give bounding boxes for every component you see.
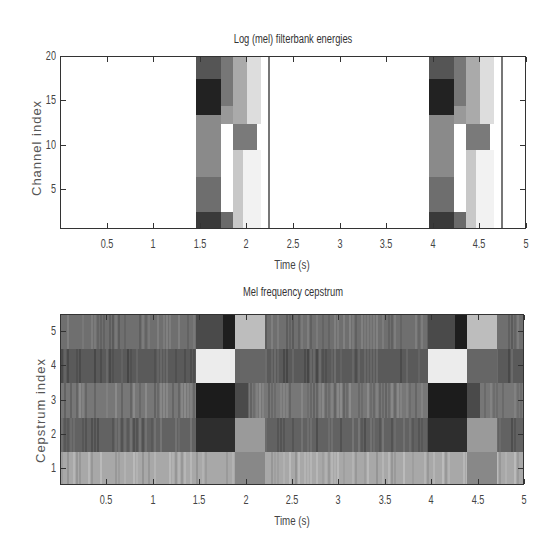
heatmap-streak bbox=[133, 418, 135, 452]
heatmap-streak bbox=[508, 349, 510, 383]
heatmap-streak bbox=[112, 349, 114, 383]
heatmap-cell bbox=[221, 57, 233, 106]
heatmap-cell bbox=[243, 150, 262, 229]
y-tick-mark bbox=[520, 100, 525, 101]
heatmap-streak bbox=[190, 418, 192, 452]
y-tick-mark bbox=[61, 468, 66, 469]
heatmap-streak bbox=[160, 418, 162, 452]
heatmap-streak bbox=[367, 383, 369, 417]
x-tick-mark bbox=[431, 315, 432, 320]
heatmap-streak bbox=[379, 383, 381, 417]
x-tick-mark bbox=[479, 223, 480, 228]
heatmap-streak bbox=[202, 452, 204, 485]
heatmap-cell bbox=[454, 57, 466, 106]
heatmap-cell bbox=[233, 57, 247, 124]
x-tick-label: 3.5 bbox=[378, 492, 391, 507]
heatmap-streak bbox=[391, 418, 393, 452]
heatmap-streak bbox=[361, 315, 363, 349]
x-tick-mark bbox=[153, 57, 154, 62]
heatmap-streak bbox=[322, 315, 324, 349]
heatmap-streak bbox=[382, 383, 384, 417]
heatmap-streak bbox=[67, 315, 69, 349]
heatmap-streak bbox=[373, 315, 375, 349]
x-tick-mark bbox=[292, 479, 293, 484]
heatmap-streak bbox=[136, 452, 138, 485]
heatmap-streak bbox=[343, 383, 345, 417]
heatmap-cell bbox=[196, 418, 235, 452]
heatmap-streak bbox=[130, 349, 132, 383]
heatmap-streak bbox=[64, 418, 66, 452]
heatmap-streak bbox=[514, 383, 516, 417]
x-tick-mark bbox=[478, 315, 479, 320]
heatmap-streak bbox=[382, 315, 384, 349]
y-tick-mark bbox=[520, 145, 525, 146]
y-tick-mark bbox=[61, 145, 66, 146]
heatmap-streak bbox=[418, 315, 420, 349]
y-tick-mark bbox=[61, 365, 66, 366]
heatmap-streak bbox=[139, 383, 141, 417]
heatmap-streak bbox=[388, 452, 390, 485]
y-tick-label: 15 bbox=[35, 92, 56, 107]
heatmap-streak bbox=[361, 418, 363, 452]
x-tick-mark bbox=[526, 57, 527, 62]
x-tick-mark bbox=[199, 479, 200, 484]
x-tick-mark bbox=[246, 223, 247, 228]
x-tick-mark bbox=[524, 479, 525, 484]
heatmap-streak bbox=[391, 315, 393, 349]
heatmap-streak bbox=[511, 418, 513, 452]
heatmap-streak bbox=[187, 383, 189, 417]
heatmap-streak bbox=[364, 418, 366, 452]
heatmap-streak bbox=[421, 315, 423, 349]
heatmap-streak bbox=[76, 452, 78, 485]
top-chart-title: Log (mel) filterbank energies bbox=[215, 32, 371, 46]
heatmap-streak bbox=[292, 418, 294, 452]
heatmap-streak bbox=[334, 315, 336, 349]
heatmap-streak bbox=[172, 452, 174, 485]
heatmap-streak bbox=[499, 418, 501, 452]
heatmap-streak bbox=[388, 315, 390, 349]
heatmap-streak bbox=[370, 418, 372, 452]
heatmap-streak bbox=[511, 349, 513, 383]
y-tick-label: 4 bbox=[35, 357, 56, 372]
heatmap-streak bbox=[154, 418, 156, 452]
y-tick-mark bbox=[61, 100, 66, 101]
heatmap-cell bbox=[467, 315, 498, 349]
top-chart-xlabel: Time (s) bbox=[274, 257, 309, 272]
heatmap-cell bbox=[196, 349, 235, 383]
heatmap-streak bbox=[226, 452, 228, 485]
heatmap-streak bbox=[277, 349, 279, 383]
heatmap-streak bbox=[400, 349, 402, 383]
heatmap-streak bbox=[262, 383, 264, 417]
heatmap-streak bbox=[322, 383, 324, 417]
heatmap-streak bbox=[373, 383, 375, 417]
heatmap-streak bbox=[307, 383, 309, 417]
x-tick-mark bbox=[433, 223, 434, 228]
heatmap-streak bbox=[151, 418, 153, 452]
x-tick-label: 2 bbox=[243, 492, 248, 507]
heatmap-streak bbox=[280, 418, 282, 452]
heatmap-streak bbox=[286, 349, 288, 383]
heatmap-streak bbox=[514, 315, 516, 349]
heatmap-streak bbox=[370, 349, 372, 383]
heatmap-cell bbox=[247, 57, 261, 124]
heatmap-streak bbox=[376, 383, 378, 417]
heatmap-streak bbox=[442, 452, 444, 485]
heatmap-streak bbox=[322, 452, 324, 485]
heatmap-streak bbox=[397, 383, 399, 417]
heatmap-streak bbox=[301, 383, 303, 417]
heatmap-streak bbox=[328, 315, 330, 349]
heatmap-streak bbox=[133, 383, 135, 417]
heatmap-cell bbox=[429, 177, 454, 212]
heatmap-streak bbox=[355, 315, 357, 349]
heatmap-cell bbox=[428, 315, 456, 349]
heatmap-streak bbox=[124, 315, 126, 349]
heatmap-cell bbox=[196, 177, 221, 212]
heatmap-streak bbox=[136, 418, 138, 452]
heatmap-streak bbox=[346, 383, 348, 417]
x-tick-mark bbox=[526, 223, 527, 228]
heatmap-streak bbox=[190, 383, 192, 417]
heatmap-streak bbox=[307, 452, 309, 485]
x-tick-label: 0.5 bbox=[100, 236, 113, 251]
heatmap-streak bbox=[277, 452, 279, 485]
y-tick-mark bbox=[518, 331, 523, 332]
